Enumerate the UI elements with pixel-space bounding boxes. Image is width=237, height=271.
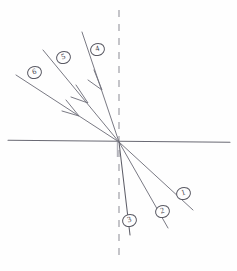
incoming-ray-4-arrowhead (88, 70, 102, 90)
figure-canvas: 6 5 4 1 2 3 (0, 0, 237, 271)
incoming-ray-5-line (43, 50, 119, 142)
incoming-ray-6-arrowhead (62, 100, 79, 116)
ray-diagram-svg (0, 0, 237, 271)
incoming-ray-6-line (16, 75, 119, 142)
